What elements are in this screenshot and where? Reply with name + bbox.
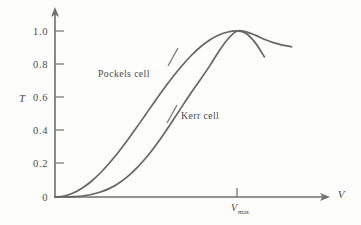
curve-pockels-cell — [55, 31, 264, 197]
vmax-label-sub: max — [238, 208, 250, 215]
chart-canvas: 1.0 0.8 0.6 0.4 0.2 0 T V V max Pockels … — [0, 0, 361, 225]
y-tick-label-0.2: 0.2 — [33, 158, 48, 169]
vmax-tick-label: V max — [231, 202, 250, 215]
y-axis-label: T — [19, 92, 26, 104]
pockels-leader-line — [168, 48, 178, 66]
x-axis-label: V — [338, 188, 346, 200]
y-tick-label-1.0: 1.0 — [33, 26, 48, 37]
y-tick-label-0.6: 0.6 — [33, 92, 48, 103]
y-tick-label-0.8: 0.8 — [33, 59, 48, 70]
annotation-kerr-cell: Kerr cell — [181, 110, 219, 121]
transmission-vs-voltage-figure: 1.0 0.8 0.6 0.4 0.2 0 T V V max Pockels … — [0, 0, 361, 225]
annotation-pockels-cell: Pockels cell — [98, 68, 150, 79]
y-tick-label-0: 0 — [42, 192, 48, 203]
y-tick-label-0.4: 0.4 — [33, 125, 48, 136]
